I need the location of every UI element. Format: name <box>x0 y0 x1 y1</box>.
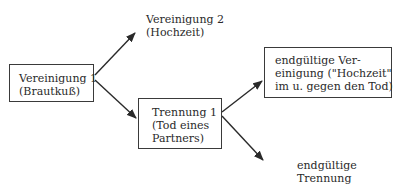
node-union2-line2: (Hochzeit) <box>146 26 224 39</box>
node-separation1: Trennung 1 (Tod eines Partners) <box>138 98 222 149</box>
node-final-separation: endgültige Trennung <box>297 159 357 185</box>
arrow-union1-to-union2 <box>95 33 135 75</box>
node-final-separation-line1: endgültige <box>297 159 357 172</box>
node-final-union-line2: einigung ("Hochzeit" <box>275 67 391 80</box>
node-final-separation-line2: Trennung <box>297 172 357 185</box>
node-final-union-line1: endgültige Ver- <box>275 54 391 67</box>
arrow-union1-to-separation1 <box>95 80 136 118</box>
node-union1-line2: (Brautkuß) <box>19 85 93 98</box>
node-union2-line1: Vereinigung 2 <box>146 13 224 26</box>
arrow-separation1-to-final-separation <box>222 116 263 160</box>
node-separation1-line1: Trennung 1 <box>152 106 221 119</box>
node-separation1-line3: Partners) <box>152 132 221 145</box>
node-union2: Vereinigung 2 (Hochzeit) <box>146 13 224 39</box>
node-union1-line1: Vereinigung 1 <box>19 72 93 85</box>
node-final-union-line3: im u. gegen den Tod) <box>275 80 391 93</box>
node-separation1-line2: (Tod eines <box>152 119 221 132</box>
arrow-separation1-to-final-union <box>222 81 262 112</box>
node-final-union: endgültige Ver- einigung ("Hochzeit" im … <box>264 47 392 98</box>
node-union1: Vereinigung 1 (Brautkuß) <box>9 64 94 102</box>
